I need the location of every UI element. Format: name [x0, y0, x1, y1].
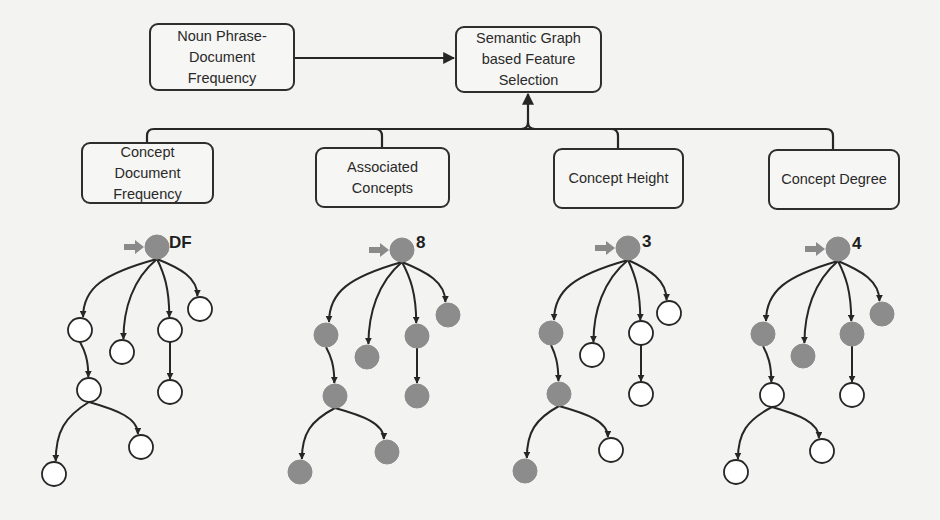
tree-node [629, 382, 653, 406]
tree-edge [554, 260, 628, 320]
tree-node [810, 439, 834, 463]
tree-node-selected [513, 459, 537, 483]
tree-edge [329, 262, 402, 322]
box-sgfs: Semantic Graphbased FeatureSelection [455, 26, 602, 93]
root-pointer-arrow-icon [124, 240, 144, 254]
tree-edge [302, 408, 335, 459]
tree-edge [89, 402, 138, 434]
tree-node-selected [436, 303, 460, 327]
tree-edge [335, 408, 384, 439]
tree-node [110, 340, 134, 364]
tree-score-label: 3 [642, 232, 651, 252]
tree-edge [551, 345, 558, 381]
root-pointer-arrow-icon [369, 243, 389, 257]
tree-edge [772, 407, 819, 438]
tree-edge [763, 346, 771, 382]
box-text-line: Frequency [177, 68, 266, 89]
tree-node [68, 318, 92, 342]
root-pointer-arrow-icon [805, 242, 825, 256]
box-text-line: Selection [476, 70, 581, 91]
tree-edge [157, 259, 169, 317]
concept-trees [42, 235, 894, 486]
tree-node [42, 462, 66, 486]
tree-node [188, 297, 212, 321]
tree-edge [766, 261, 838, 321]
tree-node-selected [405, 384, 429, 408]
tree-node [657, 301, 681, 325]
tree-edge [123, 259, 157, 339]
tree-node-selected [547, 382, 571, 406]
box-text-line: based Feature [476, 49, 581, 70]
tree-node [129, 435, 153, 459]
box-text-line: Concepts [347, 178, 418, 199]
tree-node [580, 343, 604, 367]
tree-edge [628, 260, 640, 320]
tree-edge [56, 402, 89, 461]
tree-edge [593, 260, 628, 342]
tree-edge [157, 259, 197, 296]
tree-node-selected [375, 440, 399, 464]
feature-bus-line [147, 129, 833, 149]
tree-score-label: 4 [852, 234, 861, 254]
tree-node-selected [288, 460, 312, 484]
tree-node [77, 378, 101, 402]
tree-2 [513, 236, 681, 483]
tree-root-node [145, 235, 169, 259]
tree-node-selected [323, 384, 347, 408]
tree-node [629, 321, 653, 345]
tree-edge [838, 261, 851, 321]
tree-edge [402, 262, 416, 323]
tree-node [158, 380, 182, 404]
box-text-line: Document [113, 163, 182, 184]
tree-1 [288, 238, 460, 484]
tree-node [599, 438, 623, 462]
box-text-line: Frequency [113, 184, 182, 205]
tree-node [760, 383, 784, 407]
tree-score-label: 8 [416, 233, 425, 253]
box-ch: Concept Height [553, 148, 684, 209]
box-np_df: Noun Phrase-DocumentFrequency [149, 23, 295, 91]
tree-edge [326, 347, 334, 383]
box-text-line: Semantic Graph [476, 28, 581, 49]
box-text-line: Associated [347, 157, 418, 178]
box-cd: Concept Degree [768, 149, 900, 210]
tree-edge [527, 406, 559, 458]
tree-edge [838, 261, 879, 301]
tree-root-node [390, 238, 414, 262]
tree-node-selected [870, 302, 894, 326]
box-text-line: Concept [113, 142, 182, 163]
tree-edge [368, 262, 402, 344]
tree-node-selected [840, 322, 864, 346]
tree-edge [738, 407, 772, 459]
tree-root-node [826, 237, 850, 261]
tree-node-selected [405, 324, 429, 348]
tree-3 [724, 237, 894, 484]
tree-node-selected [314, 323, 338, 347]
tree-score-label: DF [169, 233, 192, 253]
tree-edge [80, 342, 88, 377]
tree-edge [559, 406, 608, 437]
tree-edge [402, 262, 445, 302]
tree-edge [628, 260, 667, 300]
tree-root-node [616, 236, 640, 260]
box-text-line: Concept Height [569, 168, 669, 189]
box-text-line: Document [177, 47, 266, 68]
feature-drop-ac [375, 129, 382, 147]
tree-node-selected [539, 321, 563, 345]
tree-node-selected [791, 344, 815, 368]
feature-drop-ch [611, 129, 618, 148]
box-ac: AssociatedConcepts [315, 147, 450, 208]
box-cdf: ConceptDocumentFrequency [81, 142, 214, 204]
tree-node-selected [751, 322, 775, 346]
tree-node [840, 383, 864, 407]
box-text-line: Noun Phrase- [177, 26, 266, 47]
tree-edge [83, 259, 157, 317]
tree-edge [804, 261, 838, 343]
tree-node [724, 460, 748, 484]
root-pointer-arrow-icon [595, 241, 615, 255]
box-text-line: Concept Degree [781, 169, 887, 190]
tree-node-selected [355, 345, 379, 369]
tree-node [158, 318, 182, 342]
tree-0 [42, 235, 212, 486]
merge-up-arrow [521, 94, 528, 129]
